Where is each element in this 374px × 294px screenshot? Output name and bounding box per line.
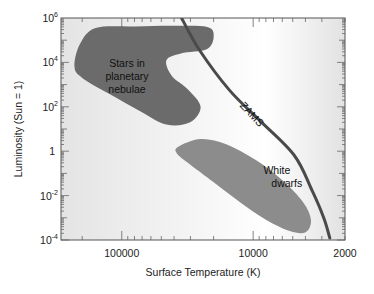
y-tick-label-base: 10	[42, 12, 54, 24]
y-tick-label: 1	[49, 145, 55, 157]
y-tick-label-exponent: -2	[52, 189, 58, 196]
y-tick-label-base: 10	[42, 101, 54, 113]
region-label-line: planetary	[105, 70, 149, 82]
y-tick-label-base: 1	[49, 145, 55, 157]
y-tick-label-base: 10	[40, 190, 52, 202]
y-tick-label-base: 10	[42, 56, 54, 68]
x-axis-title: Surface Temperature (K)	[146, 266, 261, 278]
region-label-line: nebulae	[108, 83, 146, 95]
x-tick-label: 100000	[104, 247, 139, 259]
region-label-line: dwarfs	[271, 177, 302, 189]
x-tick-label: 2000	[333, 247, 357, 259]
x-tick-label: 10000	[239, 247, 268, 259]
y-tick-label: 10-2	[40, 189, 58, 202]
y-tick-label: 102	[42, 100, 58, 113]
y-tick-label-exponent: 6	[54, 11, 58, 18]
y-tick-label: 10-4	[40, 233, 58, 246]
region-label-line: Stars in	[109, 57, 145, 69]
y-axis-title: Luminosity (Sun = 1)	[12, 81, 24, 178]
y-tick-label-base: 10	[40, 234, 52, 246]
y-tick-label: 104	[42, 55, 58, 68]
region-label-line: White	[263, 164, 290, 176]
hr-diagram-chart: Stars inplanetarynebulaeWhitedwarfsZAMS …	[0, 0, 374, 294]
y-tick-label-exponent: -4	[52, 233, 58, 240]
y-tick-label: 106	[42, 11, 58, 24]
planetary-nebulae-region-label: Stars inplanetarynebulae	[105, 57, 149, 95]
y-tick-label-exponent: 2	[54, 100, 58, 107]
y-tick-label-exponent: 4	[54, 55, 58, 62]
